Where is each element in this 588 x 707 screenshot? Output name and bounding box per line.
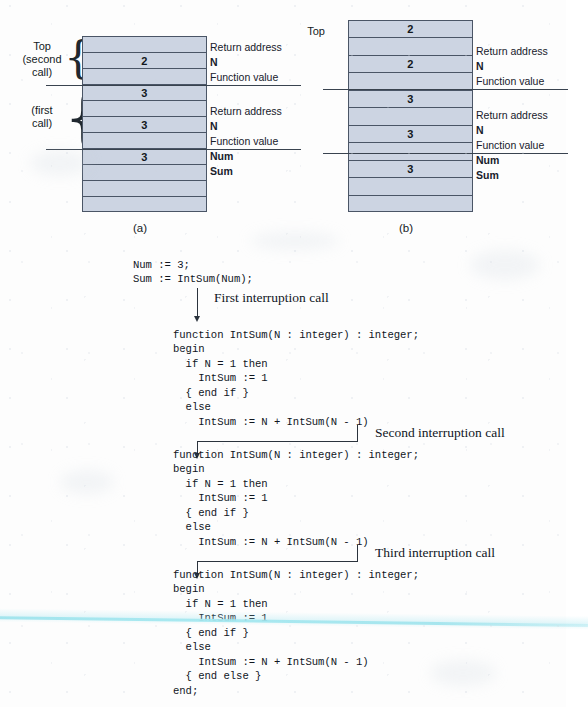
panel-a-label-return-address-2: Return address <box>210 106 282 117</box>
panel-b-label-return-address-2: Return address <box>476 110 548 121</box>
stack-b-cell-4: 3 <box>349 91 472 108</box>
stack-b-cell-9 <box>349 178 472 195</box>
flow-arrow-3-riser <box>357 545 358 562</box>
code-driver: Num := 3; Sum := IntSum(Num); <box>133 258 253 287</box>
flow-arrow-1-head <box>194 316 200 322</box>
stack-b-cell-value-8: 3 <box>349 163 472 174</box>
stack-b-cell-value-4: 3 <box>349 94 472 105</box>
panel-a-label-return-address-1: Return address <box>210 42 282 53</box>
stack-a-cell-4 <box>83 101 206 117</box>
code-block-1: function IntSum(N : integer) : integer; … <box>173 328 419 429</box>
panel-b-label-function-value-2: Function value <box>476 140 544 151</box>
stack-b-cell-8: 3 <box>349 161 472 178</box>
stack-a-cell-value-1: 2 <box>83 55 206 66</box>
flow-label-first: First interruption call <box>214 290 329 306</box>
stack-b-cell-6: 3 <box>349 126 472 143</box>
flow-arrow-2-riser <box>357 425 358 442</box>
flow-label-third: Third interruption call <box>375 545 495 561</box>
stack-a-cell-1: 2 <box>83 53 206 69</box>
stack-b-cell-10 <box>349 196 472 213</box>
panel-b-caption: (b) <box>399 222 413 234</box>
stack-b-cell-0: 2 <box>349 21 472 38</box>
panel-a-label-function-value-1: Function value <box>210 72 278 83</box>
flow-arrow-1-line <box>197 288 198 317</box>
stack-b-cell-value-2: 2 <box>349 59 472 70</box>
flow-arrow-2-horizontal <box>197 441 358 442</box>
stack-a-cell-value-5: 3 <box>83 119 206 130</box>
panel-a-label-sum: Sum <box>210 166 233 177</box>
stack-a-cell-9 <box>83 181 206 197</box>
paper-blotch <box>250 232 340 250</box>
panel-b-label-n-2: N <box>476 125 484 136</box>
stack-a-cell-value-3: 3 <box>83 87 206 98</box>
stack-a-cell-2 <box>83 69 206 85</box>
stack-panel-b: 22333 <box>348 20 473 212</box>
stack-a-cell-8 <box>83 165 206 181</box>
stack-a-cell-10 <box>83 197 206 213</box>
panel-a-label-n-2: N <box>210 121 218 132</box>
stack-panel-a: 2333 <box>82 36 207 212</box>
paper-blotch <box>470 250 540 280</box>
flow-label-second: Second interruption call <box>375 425 505 441</box>
panel-a-label-num: Num <box>210 151 233 162</box>
panel-a-label-function-value-2: Function value <box>210 136 278 147</box>
code-block-2: function IntSum(N : integer) : integer; … <box>173 448 419 549</box>
panel-b-divider-second-call <box>323 89 568 90</box>
panel-a-divider-first-call <box>46 149 301 150</box>
stack-b-cell-value-6: 3 <box>349 128 472 139</box>
panel-b-label-n-1: N <box>476 61 484 72</box>
panel-b-label-function-value-1: Function value <box>476 76 544 87</box>
panel-a-label-n-1: N <box>210 57 218 68</box>
stack-b-cell-2: 2 <box>349 56 472 73</box>
stack-b-cell-1 <box>349 38 472 55</box>
panel-a-caption: (a) <box>133 222 147 234</box>
panel-a-divider-second-call <box>46 85 301 86</box>
stack-a-cell-7: 3 <box>83 149 206 165</box>
stack-a-cell-3: 3 <box>83 85 206 101</box>
stack-a-cell-value-7: 3 <box>83 151 206 162</box>
flow-arrow-3-horizontal <box>197 561 358 562</box>
paper-blotch <box>60 470 114 494</box>
stack-b-cell-5 <box>349 108 472 125</box>
panel-b-label-sum: Sum <box>476 170 499 181</box>
panel-b-label-num: Num <box>476 155 499 166</box>
panel-b-top-label: Top <box>296 25 336 38</box>
stack-a-cell-6 <box>83 133 206 149</box>
stack-a-cell-5: 3 <box>83 117 206 133</box>
paper-blotch <box>430 660 496 686</box>
code-block-3: function IntSum(N : integer) : integer; … <box>173 568 419 698</box>
panel-b-divider-first-call <box>323 153 568 154</box>
panel-b-label-return-address-1: Return address <box>476 46 548 57</box>
stack-a-cell-0 <box>83 37 206 53</box>
stack-b-cell-value-0: 2 <box>349 24 472 35</box>
